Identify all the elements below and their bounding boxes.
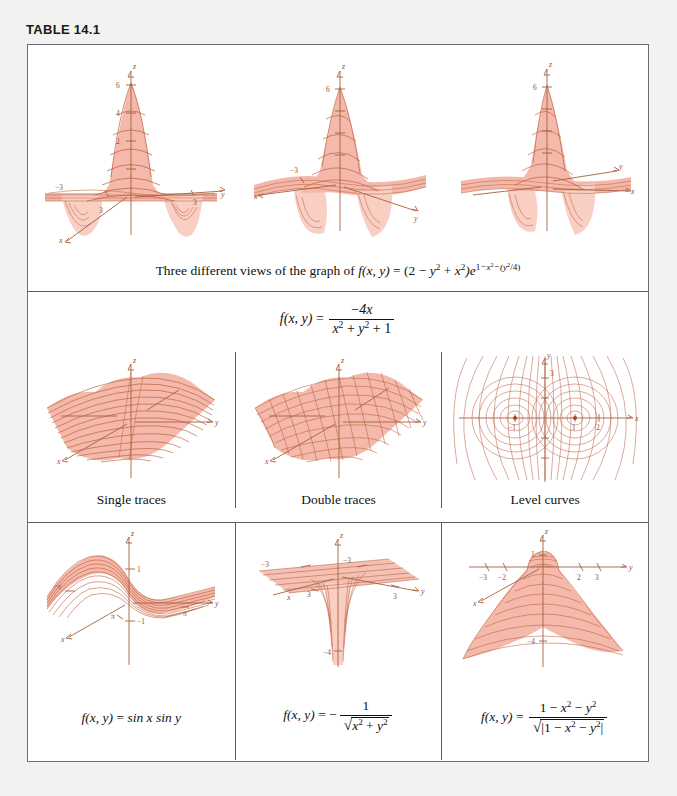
- sqrt-icon: √x2 + y2: [343, 717, 389, 734]
- den-x-sup: 2: [358, 717, 363, 727]
- axis-label-x: x: [264, 457, 269, 466]
- plot-normalized-sphere: z y x 1 −4 −3 −2 2 3: [442, 523, 648, 673]
- fn-body: sin x sin y: [127, 710, 181, 725]
- den-plus: +: [366, 718, 374, 733]
- y-tick-2: 2: [577, 573, 581, 582]
- axis-label-x: x: [286, 593, 291, 602]
- caption-y-exp: 2: [436, 262, 441, 272]
- axis-label-y: y: [422, 418, 427, 427]
- row2-plot-strip: z y x Single traces: [28, 352, 648, 508]
- exp-minus-x: −x: [480, 262, 490, 272]
- axis-label-y: y: [413, 214, 418, 223]
- formula-normalized-sphere: f(x, y) = 1 − x2 − y2 √|1 − x2 − y2|: [442, 700, 648, 736]
- z-tick-neg4: −4: [323, 648, 331, 657]
- row2-formula: f(x, y) = −4x x2 + y2 + 1: [28, 302, 648, 337]
- den-y-sup: 2: [596, 719, 601, 729]
- plot-neg-inv-sqrt: z y x −4 −3 −3 3 3: [236, 523, 442, 673]
- eq-sign: =: [116, 710, 124, 725]
- cell-view-1: z y x 6 4 2 −3 3 3: [28, 45, 235, 245]
- den-minus-2: −: [579, 720, 587, 735]
- formula-fraction: −4x x2 + y2 + 1: [329, 302, 394, 337]
- fraction: 1 √x2 + y2: [340, 698, 392, 734]
- axis-label-y: y: [546, 351, 551, 360]
- axis-label-z: z: [130, 529, 135, 538]
- table-number-label: TABLE 14.1: [26, 22, 100, 37]
- den-minus-1: −: [554, 720, 562, 735]
- eq-sign: =: [318, 707, 326, 722]
- y-tick-3: 3: [595, 573, 599, 582]
- exp-tail: /4): [510, 262, 520, 272]
- numerator: 1: [340, 698, 392, 716]
- plot-view-1: z y x 6 4 2 −3 3 3: [28, 45, 235, 245]
- axis-label-z: z: [340, 356, 345, 365]
- caption-open: (2: [404, 263, 415, 278]
- axis-label-z: z: [132, 356, 137, 365]
- z-tick-neg1: −1: [137, 617, 145, 626]
- axis-label-x: x: [60, 635, 65, 644]
- caption-fn: f(x, y): [358, 263, 389, 278]
- eq-sign: =: [516, 709, 524, 724]
- axis-label-y: y: [618, 162, 623, 171]
- axis-label-z: z: [339, 531, 344, 540]
- plot-view-3: y x z 6: [441, 45, 648, 245]
- num-minus-2: −: [575, 700, 583, 715]
- numerator-body: 4x: [359, 302, 372, 317]
- formula-eq: =: [316, 311, 324, 326]
- x-tick-1: 1: [572, 423, 576, 432]
- axis-label-z: z: [544, 527, 549, 536]
- axis-label-y: y: [214, 599, 219, 608]
- row3-plot-strip: z y x 1 −1 −π π π f(x, y): [28, 523, 648, 760]
- axis-label-y: y: [420, 587, 425, 596]
- plane-tick-pi-x: π: [111, 612, 115, 621]
- plane-tick-3-x: 3: [99, 206, 103, 215]
- denominator: √|1 − x2 − y2|: [529, 718, 607, 736]
- formula-denominator: x2 + y2 + 1: [329, 320, 394, 337]
- caption-minus: −: [419, 263, 427, 278]
- y-tick-3: 3: [550, 369, 554, 378]
- caption-eq: =: [393, 263, 401, 278]
- table-frame: z y x 6 4 2 −3 3 3: [27, 44, 649, 762]
- formula-numerator: −4x: [329, 302, 394, 320]
- den-one: 1: [544, 720, 551, 735]
- cell-sin-x-sin-y: z y x 1 −1 −π π π f(x, y): [28, 523, 235, 760]
- caption-double-traces: Double traces: [236, 492, 442, 508]
- plane-tick-3-y: 3: [393, 592, 397, 601]
- leading-minus: −: [329, 707, 337, 722]
- caption-three-views: Three different views of the graph of f(…: [28, 263, 648, 279]
- den-x-sup: 2: [571, 719, 576, 729]
- plane-tick-3-y: 3: [193, 198, 197, 207]
- numerator-sign: −: [351, 302, 359, 317]
- plot-double-traces: z y x: [236, 352, 442, 484]
- fn-label: f(x, y): [481, 709, 512, 724]
- caption-exponent: 1−x2−(y2/4): [476, 262, 521, 272]
- den-y-sup: 2: [365, 320, 370, 330]
- caption-lead: Three different views of the graph of: [156, 263, 355, 278]
- z-tick-1: 1: [137, 565, 141, 574]
- exp-minus-y: −(y: [494, 262, 507, 272]
- denominator: √x2 + y2: [340, 716, 392, 734]
- row1-plot-strip: z y x 6 4 2 −3 3 3: [28, 45, 648, 245]
- cell-single-traces: z y x Single traces: [28, 352, 235, 508]
- cell-double-traces: z y x Double traces: [235, 352, 442, 508]
- y-tick-neg2: −2: [498, 573, 506, 582]
- axis-label-x: x: [253, 192, 258, 201]
- plot-single-traces: z y x: [28, 352, 235, 484]
- axis-label-z: z: [548, 60, 553, 69]
- z-tick-4: 4: [116, 109, 120, 118]
- sqrt-icon: √|1 − x2 − y2|: [532, 719, 604, 736]
- caption-plus: +: [444, 263, 452, 278]
- caption-close-e: )e: [465, 263, 476, 278]
- cell-level-curves: x y −1 1 2 3 Level curves: [441, 352, 648, 508]
- plane-tick-neg3: −3: [55, 183, 63, 192]
- axis-label-y: y: [214, 418, 219, 427]
- cell-neg-inv-sqrt: z y x −4 −3 −3 3 3 f(x, y): [235, 523, 442, 760]
- den-plus-2: +: [373, 321, 381, 336]
- caption-single-traces: Single traces: [28, 492, 235, 508]
- plane-tick-neg-pi: −π: [53, 582, 61, 591]
- axis-label-x: x: [58, 236, 63, 245]
- plane-tick-3-x: 3: [307, 590, 311, 599]
- z-tick-6: 6: [116, 81, 120, 90]
- num-x-sup: 2: [567, 699, 572, 709]
- fn-label: f(x, y): [82, 710, 113, 725]
- den-one: 1: [384, 321, 391, 336]
